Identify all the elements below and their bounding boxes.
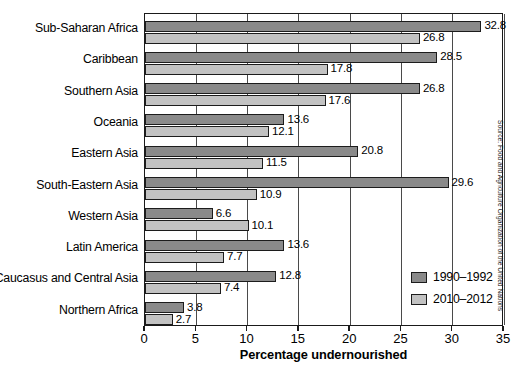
bar-group: 20.811.5 bbox=[145, 139, 502, 170]
bar-group: 13.612.1 bbox=[145, 108, 502, 139]
bar-group: 13.67.7 bbox=[145, 233, 502, 264]
category-label: South-Eastern Asia bbox=[36, 179, 138, 192]
bar-0 bbox=[145, 208, 213, 219]
bar-0 bbox=[145, 177, 449, 188]
legend-item: 2010–2012 bbox=[411, 291, 503, 313]
bar-value-label: 3.8 bbox=[187, 302, 202, 313]
bar-0 bbox=[145, 271, 276, 282]
category-label-row: Eastern Asia bbox=[0, 138, 142, 169]
x-tick-label: 10 bbox=[239, 332, 253, 346]
bar-value-label: 12.8 bbox=[279, 270, 301, 281]
bar-group: 32.826.8 bbox=[145, 14, 502, 45]
bar-0 bbox=[145, 21, 481, 32]
category-label: Southern Asia bbox=[64, 85, 138, 98]
bar-0 bbox=[145, 146, 358, 157]
category-label: Western Asia bbox=[68, 210, 138, 223]
legend-label: 1990–1992 bbox=[433, 270, 493, 285]
bar-value-label: 17.6 bbox=[329, 95, 351, 106]
legend-swatch-icon bbox=[411, 272, 427, 283]
bar-1 bbox=[145, 314, 173, 325]
x-tick-label: 15 bbox=[291, 332, 305, 346]
bar-chart: Sub-Saharan AfricaCaribbeanSouthern Asia… bbox=[0, 0, 521, 368]
bar-value-label: 28.5 bbox=[440, 51, 462, 62]
source-credit: Source: Food and Agriculture Organizatio… bbox=[497, 120, 504, 311]
bar-value-label: 10.9 bbox=[260, 189, 282, 200]
category-label-row: Oceania bbox=[0, 107, 142, 138]
category-axis-labels: Sub-Saharan AfricaCaribbeanSouthern Asia… bbox=[0, 13, 144, 326]
bar-value-label: 17.8 bbox=[331, 63, 353, 74]
bar-1 bbox=[145, 283, 221, 294]
bar-value-label: 11.5 bbox=[266, 157, 287, 168]
category-label-row: Southern Asia bbox=[0, 76, 142, 107]
bar-1 bbox=[145, 220, 249, 231]
category-label-row: Northern Africa bbox=[0, 295, 142, 326]
category-label: Caribbean bbox=[83, 53, 138, 66]
category-label-row: Western Asia bbox=[0, 201, 142, 232]
legend-swatch-icon bbox=[411, 294, 427, 305]
bar-0 bbox=[145, 114, 284, 125]
bar-0 bbox=[145, 302, 184, 313]
bar-value-label: 7.4 bbox=[224, 282, 239, 293]
category-label-row: Sub-Saharan Africa bbox=[0, 13, 142, 44]
category-label-row: Caribbean bbox=[0, 44, 142, 75]
legend-item: 1990–1992 bbox=[411, 269, 503, 291]
bar-value-label: 12.1 bbox=[272, 126, 294, 137]
bar-1 bbox=[145, 33, 420, 44]
bar-value-label: 26.8 bbox=[423, 32, 445, 43]
bar-value-label: 13.6 bbox=[287, 114, 309, 125]
category-label-row: Caucasus and Central Asia bbox=[0, 263, 142, 294]
category-label: Northern Africa bbox=[59, 304, 138, 317]
category-label-row: Latin America bbox=[0, 232, 142, 263]
bar-1 bbox=[145, 64, 328, 75]
bar-1 bbox=[145, 95, 326, 106]
bar-value-label: 20.8 bbox=[361, 145, 383, 156]
bar-group: 28.517.8 bbox=[145, 45, 502, 76]
bar-value-label: 6.6 bbox=[216, 208, 231, 219]
x-axis-title: Percentage undernourished bbox=[144, 347, 503, 362]
x-tick-label: 0 bbox=[140, 332, 147, 346]
x-tick-label: 5 bbox=[192, 332, 199, 346]
bar-0 bbox=[145, 83, 420, 94]
category-label-row: South-Eastern Asia bbox=[0, 170, 142, 201]
bar-1 bbox=[145, 252, 224, 263]
bar-group: 29.610.9 bbox=[145, 171, 502, 202]
bar-value-label: 13.6 bbox=[287, 239, 309, 250]
bar-value-label: 10.1 bbox=[252, 220, 274, 231]
x-tick-label: 30 bbox=[444, 332, 458, 346]
bar-0 bbox=[145, 52, 437, 63]
bar-value-label: 29.6 bbox=[452, 177, 474, 188]
x-tick-label: 20 bbox=[342, 332, 356, 346]
legend-label: 2010–2012 bbox=[433, 292, 493, 307]
bar-value-label: 26.8 bbox=[423, 83, 445, 94]
bar-group: 26.817.6 bbox=[145, 77, 502, 108]
category-label: Sub-Saharan Africa bbox=[35, 22, 138, 35]
category-label: Eastern Asia bbox=[71, 147, 138, 160]
bar-0 bbox=[145, 240, 284, 251]
category-label: Oceania bbox=[94, 116, 138, 129]
bar-1 bbox=[145, 126, 269, 137]
category-label: Caucasus and Central Asia bbox=[0, 272, 138, 285]
category-label: Latin America bbox=[66, 241, 138, 254]
bar-value-label: 2.7 bbox=[176, 314, 191, 325]
bar-value-label: 32.8 bbox=[484, 20, 506, 31]
x-tick-label: 25 bbox=[393, 332, 407, 346]
bar-value-label: 7.7 bbox=[227, 251, 242, 262]
bar-1 bbox=[145, 189, 257, 200]
bar-group: 6.610.1 bbox=[145, 202, 502, 233]
chart-legend: 1990–19922010–2012 bbox=[411, 269, 503, 313]
x-tick-label: 35 bbox=[496, 332, 510, 346]
bar-1 bbox=[145, 158, 263, 169]
